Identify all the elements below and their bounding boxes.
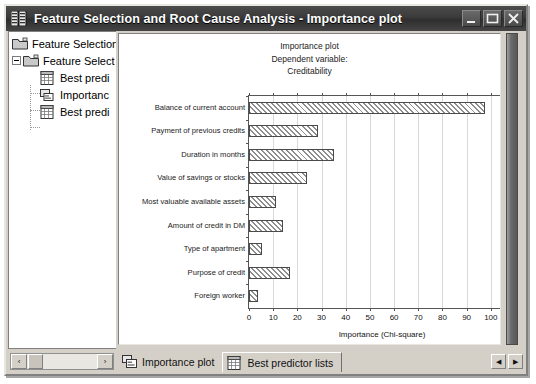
x-axis-tick (491, 93, 492, 96)
plot-area-wrapper: 0102030405060708090100110Balance of curr… (119, 34, 500, 344)
scrollbar-thumb[interactable] (28, 354, 43, 369)
x-axis-tick (297, 93, 298, 96)
tab-nav-right-button[interactable]: ▶ (508, 354, 523, 369)
x-axis-tick-label: 20 (293, 313, 302, 322)
x-axis-tick (273, 308, 274, 311)
folder-icon (12, 37, 28, 51)
y-axis-category-label: Foreign worker (194, 291, 245, 301)
application-window: Feature Selection and Root Cause Analysi… (0, 0, 536, 384)
x-axis-tick-label: 80 (438, 313, 447, 322)
grid-line (346, 96, 347, 308)
tab-label: Importance plot (142, 356, 214, 368)
tab-importance-plot[interactable]: Importance plot (118, 351, 222, 372)
grid-line (491, 96, 492, 308)
y-axis-tick (246, 96, 249, 97)
x-axis-tick (418, 93, 419, 96)
x-axis-tick-label: 100 (484, 313, 497, 322)
tree-connector-line (30, 85, 31, 130)
horizontal-scrollbar[interactable]: ‹ › (10, 353, 114, 370)
tree-item-label: Feature Select (43, 55, 115, 67)
tree-item-best-predictors-1[interactable]: Best predi (40, 69, 110, 86)
grid-line (442, 96, 443, 308)
close-button[interactable] (504, 10, 523, 27)
x-axis-tick (442, 308, 443, 311)
x-axis-tick (322, 308, 323, 311)
x-axis-tick-label: 10 (269, 313, 278, 322)
y-axis-category-label: Duration in months (181, 150, 245, 160)
spreadsheet-icon (11, 11, 27, 26)
bar (249, 125, 318, 137)
tab-best-predictor-lists[interactable]: Best predictor lists (222, 352, 342, 372)
scroll-right-button[interactable]: › (97, 354, 113, 369)
x-axis-tick (394, 308, 395, 311)
bottom-bar: ‹ › (8, 349, 526, 374)
bar (249, 149, 334, 161)
main-window: Feature Selection and Root Cause Analysi… (4, 4, 528, 376)
x-axis-tick (442, 93, 443, 96)
y-axis-tick (246, 261, 249, 262)
grid-line (322, 96, 323, 308)
minimize-button[interactable] (462, 10, 481, 27)
bar (249, 172, 307, 184)
x-axis-tick (322, 93, 323, 96)
chart-document-icon (40, 88, 56, 102)
tree-item-label: Best predi (60, 72, 110, 84)
maximize-button[interactable] (483, 10, 502, 27)
document-edge-shadow (506, 33, 518, 345)
bar (249, 290, 258, 302)
plot-frame: 0102030405060708090100110Balance of curr… (248, 95, 501, 309)
y-axis-tick (246, 143, 249, 144)
x-axis-tick-label: 30 (317, 313, 326, 322)
x-axis-tick-label: 0 (247, 313, 251, 322)
workbook-tree-panel[interactable]: Feature Selection Feature Select (8, 31, 116, 349)
collapse-toggle-icon[interactable] (12, 56, 21, 65)
y-axis-category-label: Most valuable available assets (142, 197, 245, 207)
folder-icon (23, 54, 39, 68)
y-axis-tick (246, 237, 249, 238)
x-axis-tick (297, 308, 298, 311)
chart-panel: Importance plot Dependent variable: Cred… (116, 31, 526, 349)
tree-item-best-predictors-2[interactable]: Best predi (40, 103, 110, 120)
tree-item-label: Importanc (60, 89, 109, 101)
grid-document-icon (227, 356, 242, 369)
tree-connector-line (30, 110, 40, 111)
y-axis-tick (246, 284, 249, 285)
tree-item-feature-select[interactable]: Feature Select (12, 52, 115, 69)
chart-document-icon (122, 355, 137, 368)
x-axis-tick (491, 308, 492, 311)
scrollbar-track[interactable] (43, 354, 97, 369)
tab-navigation: ◀ ▶ (491, 354, 523, 369)
x-axis-tick (467, 93, 468, 96)
importance-plot-document[interactable]: Importance plot Dependent variable: Cred… (118, 33, 501, 345)
tree-item-importance-plot[interactable]: Importanc (40, 86, 109, 103)
x-axis-tick (418, 308, 419, 311)
y-axis-tick (246, 167, 249, 168)
grid-line (418, 96, 419, 308)
x-axis-tick-label: 70 (414, 313, 423, 322)
x-axis-tick (370, 308, 371, 311)
y-axis-category-label: Type of apartment (184, 244, 245, 254)
tree-item-label: Best predi (60, 106, 110, 118)
bar (249, 267, 290, 279)
x-axis-tick (249, 308, 250, 311)
grid-document-icon (40, 105, 56, 119)
x-axis-tick (394, 93, 395, 96)
x-axis-tick-label: 90 (462, 313, 471, 322)
window-controls (462, 10, 523, 27)
y-axis-tick (246, 214, 249, 215)
y-axis-tick (246, 120, 249, 121)
bar (249, 220, 283, 232)
y-axis-tick (246, 190, 249, 191)
x-axis-tick (346, 93, 347, 96)
scroll-left-button[interactable]: ‹ (11, 354, 27, 369)
tree-item-feature-selection-root[interactable]: Feature Selection (12, 35, 116, 52)
y-axis-category-label: Value of savings or stocks (157, 173, 245, 183)
tree-item-label: Feature Selection (32, 38, 116, 50)
x-axis-tick-label: 50 (365, 313, 374, 322)
x-axis-tick (370, 93, 371, 96)
y-axis-category-label: Balance of current account (155, 103, 245, 113)
tab-nav-left-button[interactable]: ◀ (491, 354, 506, 369)
x-axis-tick (467, 308, 468, 311)
grid-line (370, 96, 371, 308)
title-bar[interactable]: Feature Selection and Root Cause Analysi… (6, 6, 526, 31)
